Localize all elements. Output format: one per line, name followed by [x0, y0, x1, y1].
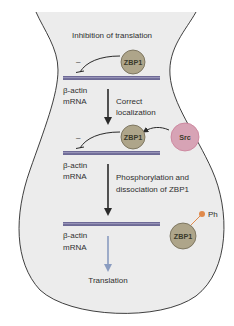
zbp1-translation-diagram: Inhibition of translation – ZBP1 β-actin… — [0, 0, 234, 326]
inhibition-minus-2: – — [76, 133, 81, 142]
transition-2-label-line1: Phosphorylation and — [116, 173, 189, 182]
zbp1-label-1: ZBP1 — [124, 58, 142, 67]
phospho-label: Ph — [208, 210, 218, 219]
transition-1-label-line2: localization — [116, 108, 156, 117]
mrna-label-1-line1: β-actin — [63, 86, 87, 95]
zbp1-label-2: ZBP1 — [124, 133, 142, 142]
inhibition-minus-1: – — [76, 57, 81, 66]
cell-outline — [19, 12, 224, 313]
src-label: Src — [179, 133, 191, 142]
mrna-label-2-line1: β-actin — [63, 161, 87, 170]
mrna-label-3-line1: β-actin — [63, 231, 87, 240]
phospho-dot — [199, 211, 205, 217]
translation-label: Translation — [88, 276, 127, 285]
transition-1-label-line1: Correct — [116, 97, 143, 106]
transition-2-label-line2: dissociation of ZBP1 — [116, 185, 189, 194]
title-inhibition-of-translation: Inhibition of translation — [72, 31, 152, 40]
zbp1-label-3: ZBP1 — [174, 232, 192, 241]
mrna-label-3-line2: mRNA — [63, 243, 87, 252]
mrna-label-2-line2: mRNA — [63, 172, 87, 181]
mrna-label-1-line2: mRNA — [63, 97, 87, 106]
